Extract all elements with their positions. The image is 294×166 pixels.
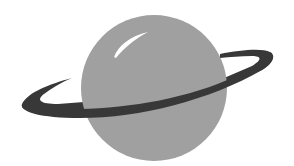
planet-sphere (81, 15, 227, 161)
planet-icon (0, 0, 294, 166)
planet-logo: Planet with ring logo (0, 0, 294, 166)
